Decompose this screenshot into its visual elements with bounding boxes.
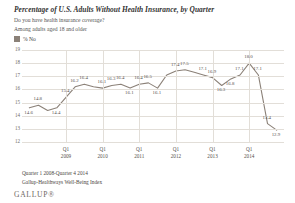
x-axis-tick-mark	[139, 50, 140, 142]
y-axis-tick-label: 13	[8, 126, 20, 131]
chart-subtitle-question: Do you have health insurance coverage?	[14, 17, 105, 23]
x-axis-tick-mark	[249, 50, 250, 142]
chart-legend: % No	[14, 36, 36, 42]
gridline	[22, 103, 284, 104]
x-axis-tick-label: Q12014	[234, 146, 264, 159]
x-axis-year: 2013	[198, 153, 228, 160]
data-point-label: 16.1	[125, 91, 134, 96]
data-point-label: 17.5	[180, 62, 189, 67]
gridline	[22, 142, 284, 143]
y-axis-tick-label: 18	[8, 60, 20, 65]
footnote-period: Quarter 1 2008-Quarter 4 2014	[22, 170, 88, 176]
y-axis-tick-label: 16	[8, 86, 20, 91]
chart-subtitle-population: Among adults aged 18 and older	[14, 26, 87, 32]
data-point-label: 16.4	[134, 76, 143, 81]
data-point-label: 16.4	[116, 76, 125, 81]
x-axis-tick-label: Q12013	[198, 146, 228, 159]
gridline	[22, 129, 284, 130]
data-point-label: 16.8	[226, 82, 235, 87]
gridline	[22, 116, 284, 117]
y-axis-tick-label: 19	[8, 47, 20, 52]
x-axis-year: 2011	[124, 153, 154, 160]
data-point-label: 14.8	[33, 97, 42, 102]
x-axis-tick-label: Q12010	[88, 146, 118, 159]
data-point-label: 16.1	[153, 91, 162, 96]
y-axis-tick-label: 17	[8, 73, 20, 78]
data-point-label: 17.1	[253, 67, 262, 72]
data-point-label: 16.3	[107, 77, 116, 82]
x-axis-year: 2010	[88, 153, 118, 160]
data-point-label: 12.9	[272, 133, 281, 138]
x-axis-year: 2014	[234, 153, 264, 160]
data-point-label: 17.4	[171, 63, 180, 68]
y-axis-tick-label: 15	[8, 100, 20, 105]
data-point-label: 16.5	[143, 75, 152, 80]
data-point-label: 16.2	[70, 79, 79, 84]
x-axis-tick-mark	[103, 50, 104, 142]
footnote-source: Gallup-Healthways Well-Being Index	[22, 179, 102, 185]
data-point-label: 17.1	[235, 67, 244, 72]
y-axis-tick-label: 12	[8, 139, 20, 144]
data-point-label: 16.1	[98, 80, 107, 85]
data-point-label: 16.3	[217, 88, 226, 93]
gallup-logo: GALLUP®	[14, 190, 55, 199]
data-point-label: 14.6	[24, 111, 33, 116]
data-point-label: 16.4	[79, 76, 88, 81]
gridline	[22, 50, 284, 51]
x-axis-tick-label: Q12009	[51, 146, 81, 159]
data-point-label: 16.9	[208, 70, 217, 75]
x-axis-tick-label: Q12012	[161, 146, 191, 159]
y-axis-tick-label: 14	[8, 113, 20, 118]
legend-label: % No	[23, 36, 36, 42]
data-point-label: 18.0	[244, 55, 253, 60]
gridline	[22, 63, 284, 64]
x-axis-tick-mark	[213, 50, 214, 142]
data-point-label: 15.4	[61, 89, 70, 94]
data-point-label: 14.4	[52, 111, 61, 116]
data-point-label: 13.4	[263, 116, 272, 121]
data-point-label: 17.1	[198, 67, 207, 72]
plot-area: 1918171615141312Q12009Q12010Q12011Q12012…	[22, 50, 284, 142]
chart-card: Percentage of U.S. Adults Without Health…	[0, 0, 295, 203]
x-axis-tick-label: Q12011	[124, 146, 154, 159]
x-axis-tick-mark	[66, 50, 67, 142]
gridline	[22, 76, 284, 77]
x-axis-year: 2012	[161, 153, 191, 160]
legend-swatch-icon	[14, 36, 20, 42]
page-title: Percentage of U.S. Adults Without Health…	[14, 5, 214, 14]
x-axis-year: 2009	[51, 153, 81, 160]
